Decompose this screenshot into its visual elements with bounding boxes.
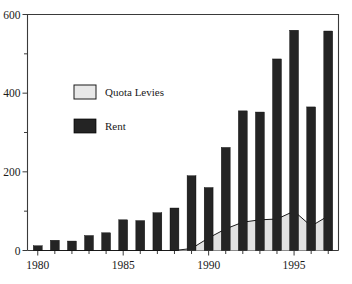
- bar-rent: [102, 233, 111, 251]
- legend-swatch-quota-levies: [74, 85, 96, 99]
- x-tick-label: 1980: [26, 259, 49, 271]
- bar-rent: [153, 213, 162, 251]
- bar-rent: [85, 236, 94, 251]
- x-axis-ticks: [38, 251, 328, 256]
- bar-rent: [204, 188, 213, 251]
- bar-rent: [50, 240, 59, 250]
- bar-rent: [307, 107, 316, 251]
- bar-rent: [273, 59, 282, 251]
- x-tick-label: 1985: [112, 259, 135, 271]
- x-tick-label: 1995: [283, 259, 306, 271]
- bar-rent: [170, 208, 179, 250]
- bar-rent: [119, 220, 128, 251]
- bar-rent: [33, 246, 42, 251]
- bar-rent: [324, 31, 333, 250]
- y-tick-label: 400: [3, 87, 21, 99]
- legend-swatch-rent: [74, 119, 96, 133]
- x-axis-tick-labels: 1980198519901995: [26, 259, 306, 271]
- y-tick-label: 200: [3, 166, 21, 178]
- chart-figure: 0200400600 1980198519901995 Quota Levies…: [0, 0, 352, 284]
- bar-area-chart: 0200400600 1980198519901995 Quota Levies…: [0, 0, 352, 284]
- x-tick-label: 1990: [197, 259, 220, 271]
- y-axis-ticks: [23, 15, 28, 251]
- bar-rent: [221, 147, 230, 250]
- y-tick-label: 600: [3, 9, 21, 21]
- bar-rent: [238, 111, 247, 251]
- bar-rent: [255, 112, 264, 250]
- legend-label-quota-levies: Quota Levies: [105, 86, 164, 98]
- bar-rent: [290, 30, 299, 250]
- bar-rent: [187, 176, 196, 251]
- bar-rent: [136, 221, 145, 251]
- y-axis-tick-labels: 0200400600: [3, 9, 21, 257]
- bar-rent: [67, 241, 76, 250]
- chart-legend: Quota Levies Rent: [74, 85, 164, 133]
- y-tick-label: 0: [15, 245, 21, 257]
- legend-label-rent: Rent: [105, 120, 126, 132]
- series-quota-levies-area: [38, 211, 329, 250]
